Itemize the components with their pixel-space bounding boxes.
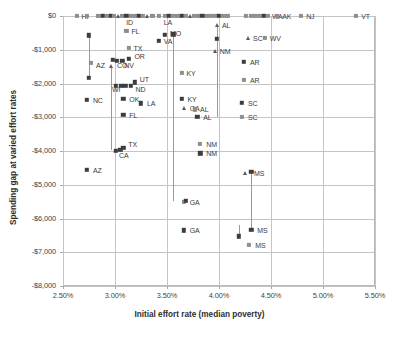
point-label: SC [248,114,258,121]
diamond-marker-icon [121,97,125,101]
point-label: MS [254,169,264,176]
point-label: MS [255,242,265,249]
point-label: FL [129,111,137,118]
point-label: CA [119,151,129,158]
point-label: GA [190,198,200,205]
diamond-marker-icon [249,227,253,231]
gridline-vertical [167,16,168,286]
x-tick-mark [375,286,376,289]
point-label: TX [134,45,143,52]
diamond-marker-icon [240,101,244,105]
y-tick-mark [60,117,63,118]
x-tick-label: 5.50% [353,291,397,300]
x-axis-title: Initial effort rate (median poverty) [0,310,399,319]
diamond-marker-icon [215,37,219,41]
diamond-marker-icon [156,38,160,42]
y-tick-mark [60,185,63,186]
point-label: NV [124,61,134,68]
x-tick-label: 5.00% [301,291,345,300]
square-marker-icon [193,107,197,111]
gridline-vertical [63,16,64,286]
gridline-vertical [375,16,376,286]
point-label: AZ [96,62,105,69]
diamond-marker-icon [87,33,91,37]
point-label: AZ [93,166,102,173]
x-tick-mark [323,286,324,289]
point-label: VA [164,37,173,44]
diamond-marker-icon [237,234,241,238]
x-tick-mark [219,286,220,289]
diamond-marker-icon [181,228,185,232]
y-tick-label: -$8,000 [10,281,56,290]
point-label: AL [222,21,230,28]
square-marker-icon [225,14,229,18]
diamond-marker-icon [184,198,188,202]
triangle-marker-icon [145,14,149,18]
point-label: UT [140,76,149,83]
square-marker-icon [242,78,246,82]
square-marker-icon [266,14,270,18]
point-label: OK [129,96,139,103]
diamond-marker-icon [87,76,91,80]
triangle-marker-icon [213,49,217,53]
y-tick-mark [60,252,63,253]
triangle-marker-icon [109,64,113,68]
point-label: SC [248,99,258,106]
x-tick-mark [167,286,168,289]
square-marker-icon [263,36,267,40]
x-tick-label: 2.50% [41,291,85,300]
scatter-chart: HIIDLAWAAKNJVTALFLMOVASCWVTXNMORCONVAZAR… [0,0,399,339]
triangle-marker-icon [243,171,247,175]
y-axis-title: Spending gap at varied effort rates [9,90,18,225]
point-label: MS [257,226,267,233]
square-marker-icon [150,14,154,18]
square-marker-icon [85,14,89,18]
diamond-marker-icon [118,147,122,151]
square-marker-icon [275,14,279,18]
square-marker-icon [89,61,93,65]
gridline-vertical [323,16,324,286]
x-tick-mark [63,286,64,289]
diamond-marker-icon [111,58,115,62]
diamond-marker-icon [123,83,127,87]
square-marker-icon [240,115,244,119]
diamond-marker-icon [121,112,125,116]
y-tick-mark [60,151,63,152]
diamond-marker-icon [128,84,132,88]
point-label: NM [206,150,217,157]
point-label: ND [136,85,146,92]
x-tick-label: 3.00% [93,291,137,300]
y-tick-label: -$1,000 [10,45,56,54]
point-label: FL [131,27,139,34]
square-marker-icon [157,14,161,18]
x-tick-mark [115,286,116,289]
connector-line [251,172,252,230]
triangle-marker-icon [182,106,186,110]
diamond-marker-icon [85,167,89,171]
point-label: AL [200,106,208,113]
point-label: KY [187,69,196,76]
point-label: TX [128,140,137,147]
square-marker-icon [247,243,251,247]
x-tick-label: 4.00% [197,291,241,300]
y-tick-label: -$7,000 [10,247,56,256]
triangle-marker-icon [215,23,219,27]
square-marker-icon [124,28,128,32]
point-label: NJ [306,13,314,20]
square-marker-icon [299,14,303,18]
point-label: WV [270,34,281,41]
x-tick-mark [271,286,272,289]
square-marker-icon [244,14,248,18]
square-marker-icon [354,14,358,18]
triangle-marker-icon [246,36,250,40]
point-label: VT [361,13,370,20]
diamond-marker-icon [133,80,137,84]
point-label: SC [253,35,263,42]
x-tick-label: 4.50% [249,291,293,300]
square-marker-icon [198,142,202,146]
point-label: KY [188,95,197,102]
square-marker-icon [179,71,183,75]
diamond-marker-icon [249,170,253,174]
diamond-marker-icon [242,59,246,63]
gridline-vertical [219,16,220,286]
